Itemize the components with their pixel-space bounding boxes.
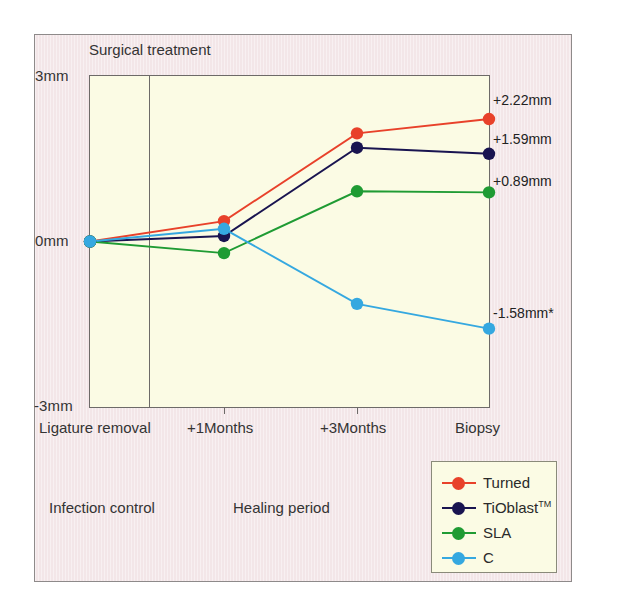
- data-point-tioblast-3[interactable]: [483, 148, 495, 160]
- y-tick-label-mid: 0mm: [35, 232, 69, 249]
- value-label-tioblast: +1.59mm: [493, 131, 552, 147]
- data-point-c-3[interactable]: [483, 322, 495, 334]
- chart-legend: Turned TiOblastTM SLA C: [431, 461, 557, 573]
- series-line-sla: [90, 191, 489, 253]
- data-point-c-2[interactable]: [351, 298, 363, 310]
- legend-item-sla[interactable]: SLA: [442, 520, 556, 545]
- legend-marker-sla: [442, 526, 476, 540]
- x-tick-label-1months: +1Months: [187, 419, 253, 436]
- legend-marker-tioblast: [442, 501, 476, 515]
- data-point-turned-3[interactable]: [483, 113, 495, 125]
- legend-item-c[interactable]: C: [442, 545, 556, 570]
- y-tick-label-bottom: -3mm: [34, 397, 73, 414]
- series-line-c: [90, 229, 489, 329]
- x-tick-label-3months: +3Months: [320, 419, 386, 436]
- plot-caption: Surgical treatment: [89, 41, 211, 58]
- legend-item-turned[interactable]: Turned: [442, 470, 556, 495]
- legend-marker-turned: [442, 476, 476, 490]
- legend-label-sla: SLA: [483, 524, 511, 541]
- value-label-turned: +2.22mm: [493, 92, 552, 108]
- legend-label-turned: Turned: [483, 474, 530, 491]
- data-point-c-1[interactable]: [218, 223, 230, 235]
- value-label-c: -1.58mm*: [493, 305, 554, 321]
- x-tick-label-ligature-removal: Ligature removal: [39, 419, 151, 436]
- data-point-sla-2[interactable]: [351, 185, 363, 197]
- legend-marker-c: [442, 551, 476, 565]
- y-tick-label-top: 3mm: [35, 67, 69, 84]
- data-point-tioblast-2[interactable]: [351, 142, 363, 154]
- value-label-sla: +0.89mm: [493, 173, 552, 189]
- series-overlay: [90, 76, 489, 407]
- x-tick-1months: [224, 407, 225, 414]
- x-tick-3months: [357, 407, 358, 414]
- series-line-tioblast: [90, 148, 489, 242]
- figure-card: Surgical treatment 3mm 0mm -3mm Ligature…: [34, 34, 572, 582]
- legend-item-tioblast[interactable]: TiOblastTM: [442, 495, 556, 520]
- x-tick-label-biopsy: Biopsy: [455, 419, 500, 436]
- legend-label-tioblast-trademark: TM: [538, 499, 551, 509]
- legend-label-tioblast: TiOblastTM: [483, 499, 551, 516]
- phase-label-healing-period: Healing period: [233, 499, 330, 516]
- data-point-sla-3[interactable]: [483, 186, 495, 198]
- data-point-sla-1[interactable]: [218, 247, 230, 259]
- legend-label-tioblast-text: TiOblast: [483, 499, 538, 516]
- plot-area: [89, 75, 490, 408]
- legend-label-c: C: [483, 549, 494, 566]
- data-point-turned-2[interactable]: [351, 127, 363, 139]
- phase-label-infection-control: Infection control: [49, 499, 155, 516]
- data-point-c-0[interactable]: [84, 235, 96, 247]
